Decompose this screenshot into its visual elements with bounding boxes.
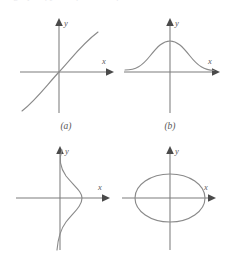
x-axis-arrow-d: [208, 194, 216, 202]
panel-b: x y: [120, 14, 224, 118]
y-axis-label-a: y: [63, 18, 68, 28]
y-axis-arrow-a: [55, 18, 63, 26]
x-axis-label-b: x: [207, 56, 212, 66]
panel-caption-b: (b): [150, 121, 190, 131]
x-axis-arrow-c: [102, 194, 110, 202]
cropped-header-band: graph of y as a function of x: [0, 0, 235, 12]
y-axis-arrow-b: [166, 18, 174, 26]
y-axis-arrow-c: [56, 146, 64, 154]
y-axis-label-b: y: [174, 18, 179, 28]
x-axis-label-c: x: [97, 182, 102, 192]
curve-c: [57, 150, 82, 250]
cropped-header-text: graph of y as a function of x: [14, 0, 224, 1]
panel-a: x y: [14, 14, 118, 118]
x-axis-label-d: x: [203, 182, 208, 192]
y-axis-label-c: y: [64, 146, 69, 156]
x-axis-label-a: x: [101, 56, 106, 66]
panel-caption-a: (a): [46, 121, 86, 131]
y-axis-label-d: y: [174, 146, 179, 156]
y-axis-arrow-d: [166, 146, 174, 154]
x-axis-arrow-b: [212, 68, 220, 76]
figure-root: graph of y as a function of x x y (a) x …: [0, 0, 235, 254]
panel-c: x y: [14, 142, 118, 254]
panel-d: x y: [120, 142, 224, 254]
x-axis-arrow-a: [106, 68, 114, 76]
